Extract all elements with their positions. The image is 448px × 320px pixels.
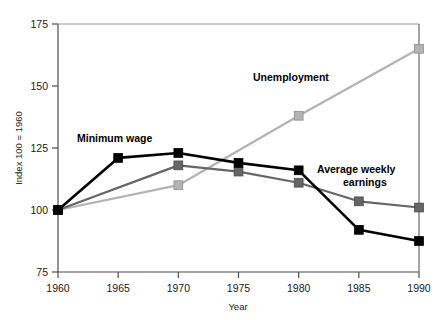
x-tick-label: 1965 [106,282,130,294]
x-tick-label: 1960 [46,282,70,294]
data-point-marker [294,166,303,175]
y-tick-label: 175 [30,18,48,30]
y-axis-ticks [52,24,58,272]
series-annotation: Minimum wage [77,132,152,144]
y-tick-label: 75 [36,266,48,278]
line-chart: 75100125150175 1960196519701975198019851… [0,0,448,320]
data-point-marker [174,181,183,190]
x-axis-ticks [58,272,419,278]
x-tick-label: 1985 [347,282,371,294]
y-tick-label: 150 [30,80,48,92]
axis-lines [58,24,419,272]
series-annotation: Average weekly [317,163,396,175]
y-axis-tick-labels: 75100125150175 [30,18,48,278]
data-point-marker [54,206,63,215]
data-point-marker [294,111,303,120]
data-point-marker [174,161,183,170]
series-annotation: Unemployment [253,71,329,83]
chart-container: 75100125150175 1960196519701975198019851… [0,0,448,320]
x-tick-label: 1975 [227,282,251,294]
data-point-marker [234,158,243,167]
x-tick-label: 1990 [407,282,431,294]
data-point-marker [415,203,424,212]
series-layer [54,44,424,245]
data-point-marker [294,178,303,187]
x-axis-title: Year [228,301,247,312]
data-point-marker [415,44,424,53]
data-point-marker [174,149,183,158]
x-axis-tick-labels: 1960196519701975198019851990 [46,282,431,294]
y-axis-title: Index 100 = 1960 [13,111,24,185]
data-point-marker [354,197,363,206]
x-tick-label: 1980 [287,282,311,294]
data-point-marker [114,154,123,163]
y-tick-label: 100 [30,204,48,216]
series-annotation: earnings [343,176,387,188]
y-tick-label: 125 [30,142,48,154]
data-point-marker [234,167,243,176]
x-tick-label: 1970 [167,282,191,294]
data-point-marker [354,225,363,234]
data-point-marker [415,237,424,246]
